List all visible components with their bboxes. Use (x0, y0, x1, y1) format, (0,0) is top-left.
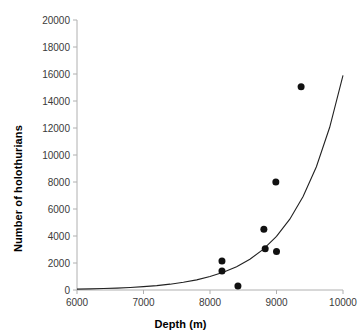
y-axis-title: Number of holothurians (12, 125, 24, 252)
x-tick-label: 8000 (199, 297, 222, 308)
y-tick-label: 14000 (42, 96, 70, 107)
data-point (298, 83, 305, 90)
scatter-plot: 0200040006000800010000120001400016000180… (0, 0, 361, 334)
x-tick-label: 9000 (265, 297, 288, 308)
data-point (262, 245, 269, 252)
y-tick-label: 16000 (42, 69, 70, 80)
y-tick-label: 2000 (48, 258, 71, 269)
x-tick-label-group: 600070008000900010000 (66, 297, 357, 308)
data-point (273, 248, 280, 255)
x-tick-label: 7000 (132, 297, 155, 308)
y-tick-label: 8000 (48, 177, 71, 188)
y-tick-label: 20000 (42, 15, 70, 26)
y-tick-label-group: 0200040006000800010000120001400016000180… (42, 15, 70, 296)
y-tick-label: 0 (64, 285, 70, 296)
data-point (218, 257, 225, 264)
y-tick-label: 6000 (48, 204, 71, 215)
exponential-fit-curve (77, 75, 343, 289)
y-tick-label: 18000 (42, 42, 70, 53)
y-axis: 0200040006000800010000120001400016000180… (42, 15, 77, 296)
y-tick-group (73, 20, 77, 290)
y-tick-label: 4000 (48, 231, 71, 242)
x-axis-title: Depth (m) (0, 318, 361, 330)
data-point (272, 179, 279, 186)
x-tick-group (77, 290, 343, 294)
y-tick-label: 12000 (42, 123, 70, 134)
chart-figure: 0200040006000800010000120001400016000180… (0, 0, 361, 334)
x-axis: 600070008000900010000 (66, 290, 357, 308)
data-point (260, 226, 267, 233)
y-tick-label: 10000 (42, 150, 70, 161)
x-tick-label: 10000 (329, 297, 357, 308)
data-point-group (218, 83, 304, 289)
x-tick-label: 6000 (66, 297, 89, 308)
data-point (218, 268, 225, 275)
data-point (234, 282, 241, 289)
